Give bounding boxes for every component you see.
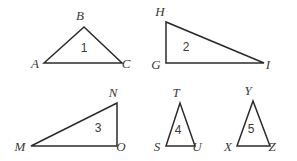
vertex-label-n: N [108, 85, 119, 100]
vertex-label-g: G [151, 57, 161, 72]
vertex-label-i: I [265, 57, 271, 72]
vertex-label-a: A [30, 56, 39, 71]
vertex-label-z: Z [268, 139, 276, 154]
triangle-2-outline [166, 22, 264, 63]
triangle-4-number: 4 [175, 123, 182, 137]
triangle-2-number: 2 [183, 40, 190, 54]
triangle-3: 3 M N O [14, 85, 127, 154]
vertex-label-h: H [154, 4, 165, 19]
triangle-2: 2 H G I [151, 4, 271, 72]
triangle-3-number: 3 [95, 121, 102, 135]
vertex-label-b: B [76, 8, 84, 23]
triangle-3-outline [31, 103, 117, 146]
geometry-figure: 1 A B C 2 H G I 3 M N O 4 T S U [0, 0, 297, 161]
triangle-4: 4 T S U [154, 85, 204, 154]
vertex-label-t: T [172, 85, 180, 100]
vertex-label-s: S [154, 139, 161, 154]
triangle-1: 1 A B C [30, 8, 131, 71]
triangle-1-number: 1 [81, 41, 88, 55]
triangle-5: 5 Y X Z [223, 83, 276, 154]
vertex-label-y: Y [244, 83, 253, 98]
triangle-5-number: 5 [248, 122, 255, 136]
triangles-canvas: 1 A B C 2 H G I 3 M N O 4 T S U [0, 0, 297, 161]
vertex-label-m: M [14, 139, 27, 154]
vertex-label-c: C [122, 56, 131, 71]
vertex-label-u: U [192, 139, 203, 154]
vertex-label-o: O [116, 139, 126, 154]
vertex-label-x: X [223, 139, 233, 154]
